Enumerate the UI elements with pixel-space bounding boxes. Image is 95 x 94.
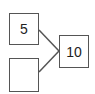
connector-top	[39, 30, 59, 51]
part-box-bottom[interactable]	[9, 58, 39, 92]
connector-bottom	[39, 51, 59, 72]
part-top-value: 5	[20, 21, 28, 37]
part-box-top[interactable]: 5	[9, 13, 39, 45]
whole-box[interactable]: 10	[59, 35, 89, 68]
whole-value: 10	[66, 44, 82, 60]
